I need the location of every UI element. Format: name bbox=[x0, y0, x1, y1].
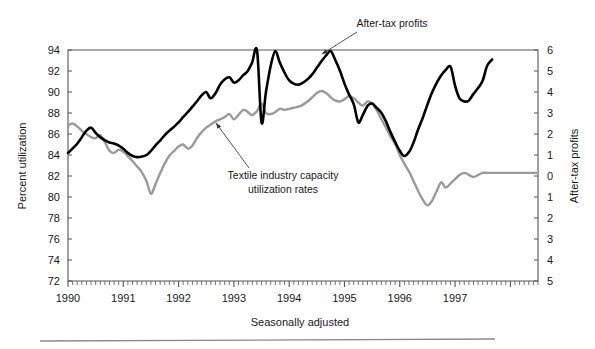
x-axis-year-label: 1996 bbox=[388, 292, 412, 304]
right-axis-tick-label: 4 bbox=[547, 254, 553, 266]
right-axis-tick-label: 1 bbox=[547, 191, 553, 203]
right-axis-tick-label: 6 bbox=[547, 44, 553, 56]
left-axis-tick-label: 86 bbox=[48, 128, 60, 140]
left-axis-tick-label: 74 bbox=[48, 254, 60, 266]
annotation-textile-line1: Textile industry capacity bbox=[228, 169, 340, 181]
right-axis-tick-label: 2 bbox=[547, 128, 553, 140]
right-axis-tick-label: 5 bbox=[547, 65, 553, 77]
right-axis-tick-label: 1 bbox=[547, 149, 553, 161]
x-axis-year-label: 1994 bbox=[277, 292, 301, 304]
right-axis-tick-label: 2 bbox=[547, 212, 553, 224]
x-axis-year-label: 1990 bbox=[56, 292, 80, 304]
chart-canvas: 949290888684828078767472 654321012345 19… bbox=[0, 0, 595, 349]
annotation-after-tax-profits: After-tax profits bbox=[356, 17, 427, 29]
x-axis-year-label: 1992 bbox=[166, 292, 190, 304]
left-axis-tick-label: 82 bbox=[48, 170, 60, 182]
x-axis-year-label: 1991 bbox=[111, 292, 135, 304]
right-axis-tick-label: 4 bbox=[547, 86, 553, 98]
left-axis-tick-label: 94 bbox=[48, 44, 60, 56]
right-axis-tick-label: 0 bbox=[547, 170, 553, 182]
right-axis-title: After-tax profits bbox=[568, 128, 580, 203]
x-axis-year-label: 1997 bbox=[443, 292, 467, 304]
left-axis-tick-label: 72 bbox=[48, 275, 60, 287]
left-axis-tick-label: 78 bbox=[48, 212, 60, 224]
left-axis-tick-label: 88 bbox=[48, 107, 60, 119]
left-axis-tick-label: 80 bbox=[48, 191, 60, 203]
left-axis-title: Percent utilization bbox=[16, 123, 28, 210]
right-axis-tick-label: 5 bbox=[547, 275, 553, 287]
left-axis-tick-label: 76 bbox=[48, 233, 60, 245]
right-axis-tick-label: 3 bbox=[547, 107, 553, 119]
annotation-textile-line2: utilization rates bbox=[248, 183, 318, 195]
left-axis-tick-label: 92 bbox=[48, 65, 60, 77]
x-axis-caption: Seasonally adjusted bbox=[251, 316, 349, 328]
x-axis-year-label: 1993 bbox=[222, 292, 246, 304]
left-axis-tick-label: 84 bbox=[48, 149, 60, 161]
left-axis-tick-label: 90 bbox=[48, 86, 60, 98]
x-axis-year-label: 1995 bbox=[332, 292, 356, 304]
chart-figure: 949290888684828078767472 654321012345 19… bbox=[0, 0, 595, 349]
right-axis-tick-label: 3 bbox=[547, 233, 553, 245]
